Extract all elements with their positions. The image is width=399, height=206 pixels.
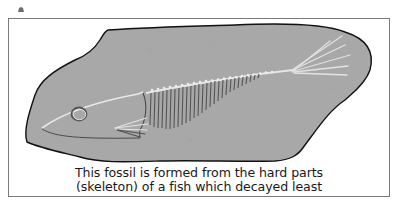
- caption-line-2: (skeleton) of a fish which decayed least: [8, 180, 390, 194]
- figure-caption: This fossil is formed from the hard part…: [8, 166, 390, 194]
- caption-line-1: This fossil is formed from the hard part…: [8, 166, 390, 180]
